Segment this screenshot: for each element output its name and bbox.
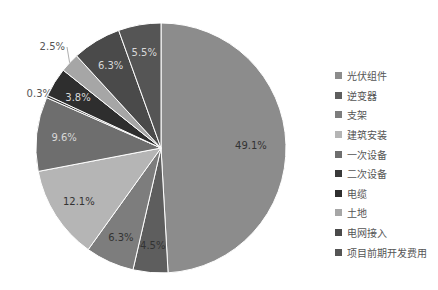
slice-label: 4.5% <box>140 240 165 251</box>
legend-item: 一次设备 <box>335 144 427 164</box>
legend-swatch <box>335 111 342 118</box>
legend-item: 电网接入 <box>335 223 427 243</box>
legend-item: 二次设备 <box>335 164 427 184</box>
slice-label: 2.5% <box>40 41 65 52</box>
legend-item: 光伏组件 <box>335 66 427 86</box>
legend-swatch <box>335 190 342 197</box>
legend-item: 建筑安装 <box>335 125 427 145</box>
legend-swatch <box>335 170 342 177</box>
legend-item: 支架 <box>335 105 427 125</box>
slice-label: 6.3% <box>108 232 133 243</box>
slice-label: 5.5% <box>132 47 157 58</box>
slice-label: 3.8% <box>65 92 90 103</box>
legend-item: 土地 <box>335 203 427 223</box>
legend: 光伏组件 逆变器 支架 建筑安装 一次设备 二次设备 电缆 土地 电网接入 项目… <box>335 66 427 262</box>
legend-swatch <box>335 131 342 138</box>
slice-label: 6.3% <box>98 60 123 71</box>
legend-swatch <box>335 249 342 256</box>
pie-slice <box>161 23 286 273</box>
legend-item: 项目前期开发费用 <box>335 242 427 262</box>
legend-swatch <box>335 209 342 216</box>
slice-label: 12.1% <box>63 196 95 207</box>
legend-swatch <box>335 92 342 99</box>
slice-label: 9.6% <box>51 132 76 143</box>
legend-swatch <box>335 229 342 236</box>
legend-swatch <box>335 151 342 158</box>
legend-item: 逆变器 <box>335 86 427 106</box>
legend-swatch <box>335 72 342 79</box>
slice-label: 49.1% <box>235 140 267 151</box>
legend-item: 电缆 <box>335 184 427 204</box>
